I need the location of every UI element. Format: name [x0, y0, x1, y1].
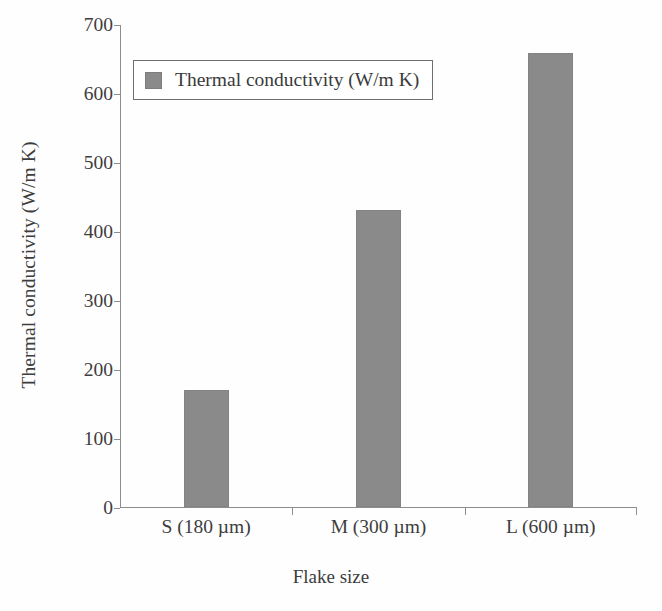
x-axis-tick-label: L (600 µm) — [506, 517, 596, 537]
x-axis-title: Flake size — [0, 566, 662, 588]
y-axis-tick-label: 200 — [55, 360, 113, 380]
y-axis-tick-mark — [114, 439, 120, 440]
y-axis-tick-mark — [114, 301, 120, 302]
bar — [356, 210, 401, 507]
y-axis-tick-label: 400 — [55, 222, 113, 242]
legend-label: Thermal conductivity (W/m K) — [175, 70, 419, 90]
x-axis-end-tick-mark — [636, 508, 637, 515]
y-axis-tick-mark — [114, 508, 120, 509]
x-axis-tick-label: M (300 µm) — [331, 517, 427, 537]
y-axis-tick-mark — [114, 163, 120, 164]
y-axis-title: Thermal conductivity (W/m K) — [14, 0, 44, 530]
y-axis-line — [120, 25, 121, 508]
y-axis-tick-mark — [114, 370, 120, 371]
y-axis-tick-mark — [114, 232, 120, 233]
x-axis-line — [120, 507, 637, 508]
legend-swatch-icon — [145, 72, 162, 89]
y-axis-tick-label: 300 — [55, 291, 113, 311]
y-axis-tick-label: 500 — [55, 153, 113, 173]
y-axis-tick-label: 0 — [55, 498, 113, 518]
y-axis-tick-label: 700 — [55, 15, 113, 35]
x-axis-tick-mark — [465, 508, 466, 515]
bar — [528, 53, 573, 507]
bar — [184, 390, 229, 507]
y-axis-title-text: Thermal conductivity (W/m K) — [18, 141, 40, 388]
x-axis-tick-labels: S (180 µm)M (300 µm)L (600 µm) — [120, 517, 637, 547]
y-axis-tick-labels: 0100200300400500600700 — [55, 0, 113, 611]
y-axis-tick-label: 100 — [55, 429, 113, 449]
bar-chart-figure: Thermal conductivity (W/m K) 01002003004… — [0, 0, 662, 611]
y-axis-tick-mark — [114, 25, 120, 26]
x-axis-tick-mark — [292, 508, 293, 515]
y-axis-tick-label: 600 — [55, 84, 113, 104]
y-axis-tick-mark — [114, 94, 120, 95]
x-axis-tick-label: S (180 µm) — [162, 517, 251, 537]
chart-legend: Thermal conductivity (W/m K) — [133, 60, 433, 100]
